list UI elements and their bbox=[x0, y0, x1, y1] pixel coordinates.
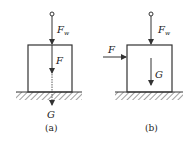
force-diagram: Fw F G (a) Fw F G (b) bbox=[0, 0, 191, 141]
label-g-a: G bbox=[47, 109, 55, 120]
ground-hatch-a bbox=[16, 92, 82, 100]
block-b bbox=[127, 45, 172, 92]
load-point-icon-a bbox=[50, 12, 54, 16]
label-fw-b: Fw bbox=[157, 24, 171, 36]
label-f-a: F bbox=[55, 55, 64, 66]
label-fw-a: Fw bbox=[56, 24, 70, 36]
panel-a: Fw F G (a) bbox=[16, 12, 82, 133]
load-point-icon-b bbox=[149, 12, 153, 16]
caption-b: (b) bbox=[145, 123, 158, 133]
caption-a: (a) bbox=[45, 123, 57, 133]
ground-hatch-b bbox=[115, 92, 183, 100]
panel-b: Fw F G (b) bbox=[103, 12, 183, 133]
block-a bbox=[28, 45, 72, 92]
label-g-b: G bbox=[155, 69, 163, 80]
label-f-b: F bbox=[107, 44, 116, 55]
